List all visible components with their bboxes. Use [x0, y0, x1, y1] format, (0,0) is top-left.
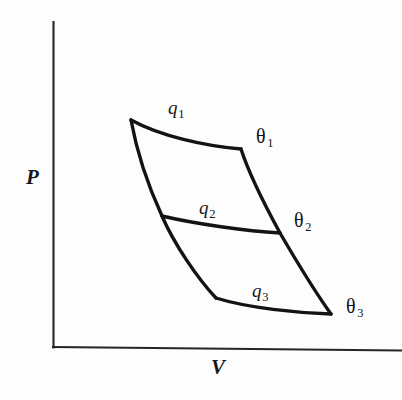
isotherm-label-theta3-base: θ [346, 295, 356, 317]
heat-label-q3: q3 [252, 281, 268, 300]
isotherm-q1-curve [131, 120, 241, 149]
heat-label-q1: q1 [168, 98, 184, 117]
isotherm-label-theta3: θ3 [346, 296, 362, 316]
isotherm-label-theta1-subscript: 1 [267, 136, 273, 150]
heat-label-q2-subscript: 2 [209, 207, 215, 221]
heat-label-q3-base: q [252, 280, 262, 301]
isotherm-label-theta2: θ2 [294, 210, 310, 230]
volume-axis [53, 347, 402, 351]
isotherm-label-theta2-base: θ [294, 209, 304, 231]
isotherm-label-theta1-base: θ [256, 125, 266, 147]
isotherm-label-theta2-subscript: 2 [305, 220, 311, 234]
heat-label-q1-subscript: 1 [178, 107, 184, 121]
pv-diagram-figure: P V q1 q2 q3 θ1 θ2 θ3 [0, 0, 402, 400]
heat-label-q1-base: q [168, 97, 178, 118]
pressure-axis-label: P [26, 167, 39, 188]
heat-label-q2-base: q [199, 197, 209, 218]
volume-axis-label: V [211, 357, 225, 378]
isotherm-q2-curve [162, 216, 280, 233]
heat-label-q2: q2 [199, 198, 215, 217]
isotherm-label-theta3-subscript: 3 [357, 306, 363, 320]
adiabat-right-lower-curve [280, 233, 331, 314]
isotherm-q3-curve [216, 298, 331, 314]
adiabat-right-upper-curve [241, 149, 280, 233]
heat-label-q3-subscript: 3 [262, 290, 268, 304]
isotherm-label-theta1: θ1 [256, 126, 272, 146]
adiabat-left-upper-curve [131, 120, 162, 216]
adiabat-left-lower-curve [162, 216, 216, 298]
